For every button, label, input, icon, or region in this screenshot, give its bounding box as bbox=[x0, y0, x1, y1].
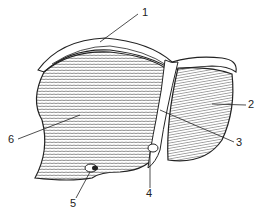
gallbladder-shadow bbox=[92, 166, 98, 171]
left-lobe bbox=[168, 68, 233, 161]
round-ligament bbox=[148, 144, 158, 152]
leader-1 bbox=[100, 14, 138, 42]
label-2: 2 bbox=[248, 98, 254, 110]
label-3: 3 bbox=[236, 136, 242, 148]
label-4: 4 bbox=[146, 187, 152, 199]
label-6: 6 bbox=[8, 133, 14, 145]
liver-diagram: 1 2 3 4 5 6 bbox=[0, 0, 260, 213]
label-1: 1 bbox=[142, 6, 148, 18]
right-lobe bbox=[35, 52, 168, 180]
label-5: 5 bbox=[70, 197, 76, 209]
